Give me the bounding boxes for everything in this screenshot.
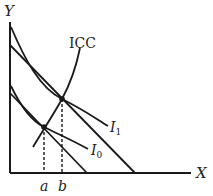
i0-label: I0: [90, 142, 103, 160]
marker-a: a: [40, 178, 48, 194]
i1-label-sub: 1: [116, 127, 122, 137]
i1-label: I1: [109, 119, 121, 137]
x-axis-label: X: [195, 164, 208, 182]
indifference-curve-i0: [11, 86, 88, 149]
marker-b: b: [58, 178, 67, 194]
y-axis-label: Y: [4, 2, 16, 20]
i0-label-sub: 0: [97, 150, 103, 160]
icc-label: ICC: [69, 35, 96, 51]
icc-diagram: Y X ICC I1 I0 a b: [0, 0, 213, 196]
